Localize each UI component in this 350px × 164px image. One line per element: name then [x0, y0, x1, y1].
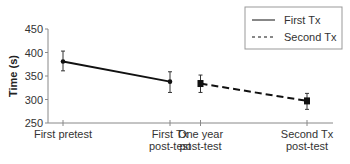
- y-tick-label: 400: [25, 47, 43, 59]
- y-axis: 250300350400450 Time (s): [7, 23, 48, 129]
- series-first-tx: [61, 51, 173, 92]
- x-tick-label: One year: [178, 128, 224, 140]
- x-tick-label: First pretest: [34, 128, 92, 140]
- x-tick-label: post-test: [286, 140, 328, 152]
- y-tick-label: 300: [25, 94, 43, 106]
- y-axis-label: Time (s): [7, 55, 19, 97]
- series-second-tx: [198, 75, 311, 109]
- y-tick-label: 450: [25, 23, 43, 35]
- y-tick-label: 350: [25, 70, 43, 82]
- data-point-marker: [198, 80, 204, 87]
- x-tick-label: post-test: [179, 140, 221, 152]
- data-point-marker: [61, 59, 66, 64]
- plot-area: [61, 51, 310, 109]
- legend-item-second-tx: Second Tx: [284, 31, 337, 43]
- line-chart: 250300350400450 Time (s) First pretestFi…: [0, 0, 350, 164]
- x-tick-label: Second Tx: [281, 128, 334, 140]
- legend-item-first-tx: First Tx: [284, 14, 321, 26]
- x-axis: First pretestFirst Txpost-testOne yearpo…: [34, 120, 334, 152]
- data-point-marker: [304, 97, 310, 104]
- legend: First Tx Second Tx: [245, 7, 342, 49]
- data-point-marker: [168, 79, 173, 84]
